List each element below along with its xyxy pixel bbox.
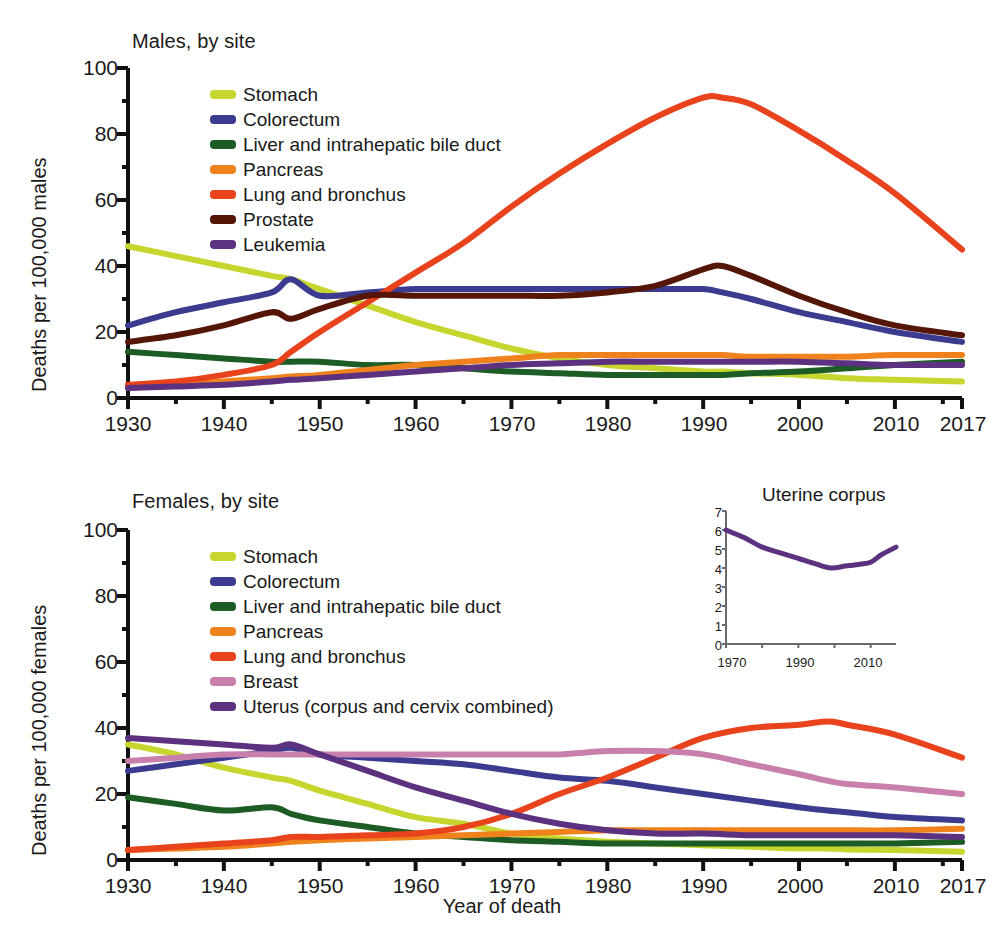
x-axis-label: Year of death bbox=[0, 895, 1004, 918]
series-line bbox=[128, 266, 962, 342]
plot-area-females bbox=[0, 460, 1004, 947]
panel-males: Males, by site Deaths per 100,000 males … bbox=[0, 0, 1004, 470]
cancer-mortality-figure: Males, by site Deaths per 100,000 males … bbox=[0, 0, 1004, 947]
series-line bbox=[128, 96, 962, 385]
panel-females: Females, by site Deaths per 100,000 fema… bbox=[0, 460, 1004, 947]
plot-area-males bbox=[0, 0, 1004, 470]
